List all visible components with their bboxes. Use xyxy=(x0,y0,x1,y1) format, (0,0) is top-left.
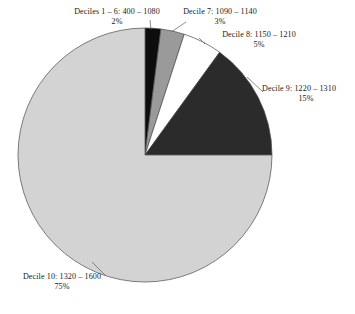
slice-label-percent: 15% xyxy=(262,94,350,104)
slice-label-percent: 75% xyxy=(8,282,116,292)
slice-label-decile-10: Decile 10: 1320 – 1600 75% xyxy=(8,272,116,293)
slice-label-decile-7: Decile 7: 1090 – 1140 3% xyxy=(168,7,272,28)
slice-label-text: Deciles 1 – 6: 400 – 1080 xyxy=(58,7,176,17)
slice-label-text: Decile 9: 1220 – 1310 xyxy=(262,84,355,94)
pie-chart: Deciles 1 – 6: 400 – 1080 2% Decile 7: 1… xyxy=(0,0,355,314)
slice-label-decile-8: Decile 8: 1150 – 1210 5% xyxy=(200,30,318,51)
slice-label-decile-9: Decile 9: 1220 – 1310 15% xyxy=(262,84,355,105)
slice-label-text: Decile 7: 1090 – 1140 xyxy=(168,7,272,17)
slice-label-percent: 3% xyxy=(168,17,272,27)
slice-label-percent: 5% xyxy=(200,40,318,50)
slice-label-text: Decile 8: 1150 – 1210 xyxy=(200,30,318,40)
slice-label-deciles-1-6: Deciles 1 – 6: 400 – 1080 2% xyxy=(58,7,176,28)
slice-label-percent: 2% xyxy=(58,17,176,27)
slice-label-text: Decile 10: 1320 – 1600 xyxy=(8,272,116,282)
